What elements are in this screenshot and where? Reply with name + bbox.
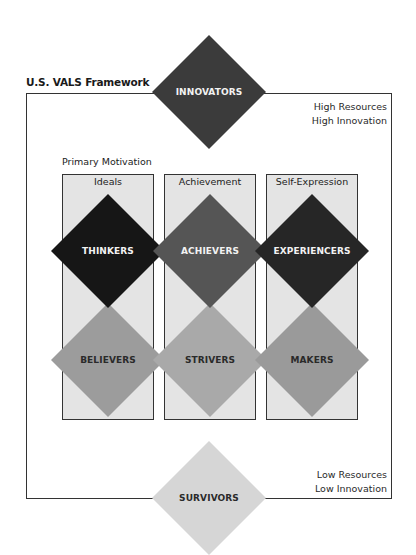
high-innovation-label: High Innovation [312,114,387,128]
innovators-label: INNOVATORS [152,87,266,97]
diagram-title: U.S. VALS Framework [26,76,149,88]
high-resources-note: High Resources High Innovation [312,100,387,128]
believers-label: BELIEVERS [51,355,165,365]
segment-believers: BELIEVERS [51,303,165,417]
high-resources-label: High Resources [312,100,387,114]
low-innovation-label: Low Innovation [315,482,387,496]
low-resources-note: Low Resources Low Innovation [315,468,387,496]
achievers-label: ACHIEVERS [153,246,267,256]
segment-strivers: STRIVERS [153,303,267,417]
experiencers-label: EXPERIENCERS [255,246,369,256]
low-resources-label: Low Resources [315,468,387,482]
primary-motivation-label: Primary Motivation [62,156,152,167]
segment-makers: MAKERS [255,303,369,417]
survivors-label: SURVIVORS [152,493,266,503]
makers-label: MAKERS [255,355,369,365]
column-label-ideals: Ideals [63,176,153,187]
column-label-self-expression: Self-Expression [267,176,357,187]
segment-experiencers: EXPERIENCERS [255,194,369,308]
segment-innovators: INNOVATORS [152,35,266,149]
segment-achievers: ACHIEVERS [153,194,267,308]
column-label-achievement: Achievement [165,176,255,187]
thinkers-label: THINKERS [51,246,165,256]
segment-thinkers: THINKERS [51,194,165,308]
strivers-label: STRIVERS [153,355,267,365]
segment-survivors: SURVIVORS [152,441,266,555]
